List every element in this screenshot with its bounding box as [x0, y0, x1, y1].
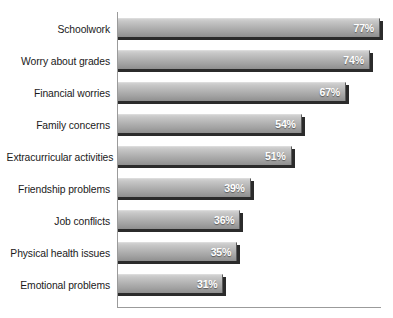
- bar-row: Financial worries67%: [0, 82, 393, 114]
- bar-row: Worry about grades74%: [0, 50, 393, 82]
- bar-chart: Schoolwork77%Worry about grades74%Financ…: [0, 0, 393, 318]
- bar: 67%: [118, 82, 346, 101]
- bar-wrapper: 54%: [118, 114, 302, 136]
- bar-wrapper: 36%: [118, 210, 240, 232]
- bar-category-label: Friendship problems: [7, 178, 110, 200]
- bar-wrapper: 77%: [118, 18, 380, 40]
- bar-value-label: 35%: [211, 243, 231, 262]
- bar-category-label: Extracurricular activities: [7, 146, 110, 168]
- bar-wrapper: 51%: [118, 146, 292, 168]
- bar-wrapper: 74%: [118, 50, 370, 72]
- bar-category-label: Emotional problems: [7, 274, 110, 296]
- bar-value-label: 54%: [275, 115, 295, 134]
- bar: 36%: [118, 210, 240, 229]
- bar-row: Job conflicts36%: [0, 210, 393, 242]
- bar: 39%: [118, 178, 251, 197]
- bar: 35%: [118, 242, 237, 261]
- bar-value-label: 74%: [343, 51, 363, 70]
- bar-category-label: Physical health issues: [7, 242, 110, 264]
- bar-value-label: 51%: [265, 147, 285, 166]
- bar-category-label: Family concerns: [7, 114, 110, 136]
- bar-category-label: Financial worries: [7, 82, 110, 104]
- bar-value-label: 67%: [320, 83, 340, 102]
- bar: 77%: [118, 18, 380, 37]
- bar-wrapper: 31%: [118, 274, 223, 296]
- bar-row: Friendship problems39%: [0, 178, 393, 210]
- bar-value-label: 77%: [354, 19, 374, 38]
- bar-row: Physical health issues35%: [0, 242, 393, 274]
- bar-value-label: 36%: [214, 211, 234, 230]
- bar-wrapper: 35%: [118, 242, 237, 264]
- bar-value-label: 39%: [224, 179, 244, 198]
- bar: 51%: [118, 146, 292, 165]
- bar-category-label: Job conflicts: [7, 210, 110, 232]
- bar-row: Family concerns54%: [0, 114, 393, 146]
- bar-row: Emotional problems31%: [0, 274, 393, 306]
- bar-wrapper: 67%: [118, 82, 346, 104]
- bar-category-label: Worry about grades: [7, 50, 110, 72]
- bar-value-label: 31%: [197, 275, 217, 294]
- bar-row: Extracurricular activities51%: [0, 146, 393, 178]
- bar: 74%: [118, 50, 370, 69]
- bar-category-label: Schoolwork: [7, 18, 110, 40]
- bar: 31%: [118, 274, 223, 293]
- bar: 54%: [118, 114, 302, 133]
- bar-wrapper: 39%: [118, 178, 251, 200]
- bar-rows: Schoolwork77%Worry about grades74%Financ…: [0, 0, 393, 318]
- bar-row: Schoolwork77%: [0, 18, 393, 50]
